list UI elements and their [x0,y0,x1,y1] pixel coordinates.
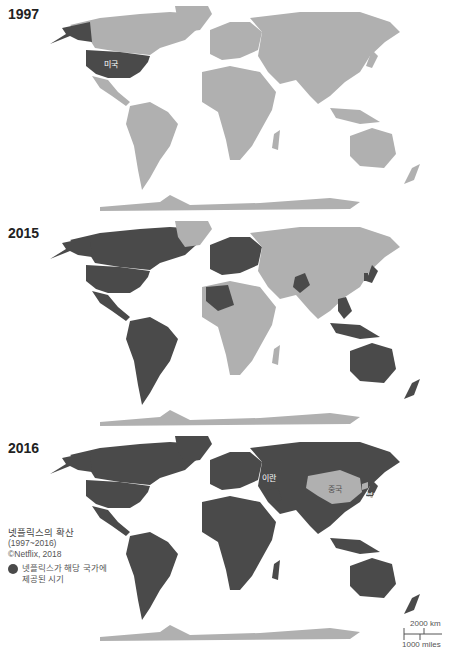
europe [210,237,262,275]
scale-miles: 1000 miles [402,640,442,649]
indonesia [330,538,380,554]
australia [350,128,396,168]
legend: 넷플릭스의 확산 (1997~2016) ©Netflix, 2018 넷플릭스… [8,527,107,585]
scale-bar: 2000 km 1000 miles [402,619,442,649]
usa [86,480,150,508]
usa [86,50,150,78]
africa [202,496,276,590]
antarctica [100,195,360,211]
label-iran: 이란 [262,472,276,483]
map-2015: 2015 [0,215,450,430]
legend-title: 넷플릭스의 확산 [8,527,107,538]
australia [350,558,396,598]
map-1997: 1997 미국 [0,0,450,215]
label-north-korea: 북한 [366,490,380,501]
legend-item-line1: 넷플릭스가 해당 국가에 [22,563,107,573]
legend-item-line2: 제공된 시기 [22,574,64,584]
world-map-2015 [0,215,450,430]
label-usa: 미국 [104,58,118,69]
africa [202,66,276,160]
indonesia [330,323,380,339]
south-america [126,317,178,405]
usa [86,265,150,293]
antarctica [100,410,360,426]
south-america [126,102,178,190]
legend-swatch-icon [8,564,18,574]
world-map-1997 [0,0,450,215]
south-america [126,532,178,620]
europe [210,22,262,60]
europe [210,452,262,490]
southeast-asia [338,297,352,319]
scale-ruler-icon [402,628,442,640]
label-china: 중국 [328,483,342,494]
scale-km: 2000 km [410,619,442,628]
antarctica [100,625,360,641]
legend-source: ©Netflix, 2018 [8,549,107,560]
mexico [92,76,130,106]
legend-range: (1997~2016) [8,538,107,549]
legend-item: 넷플릭스가 해당 국가에 제공된 시기 [8,563,107,585]
south-korea [364,273,368,281]
mexico [92,291,130,321]
australia [350,343,396,383]
indonesia [330,108,380,124]
